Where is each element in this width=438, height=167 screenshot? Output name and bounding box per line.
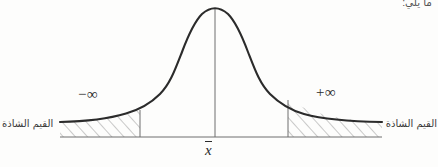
normal-distribution-diagram: [0, 0, 438, 167]
bell-curve-path: [60, 8, 382, 122]
outlier-label-right: القيم الشاذة: [386, 118, 437, 129]
outlier-label-left: القيم الشاذة: [2, 118, 53, 129]
right-tail-shading: [286, 96, 386, 139]
positive-infinity-label: +∞: [316, 84, 336, 101]
figure-container: ما يلي: القيم الشاذة: [0, 0, 438, 167]
negative-infinity-label: −∞: [78, 86, 98, 103]
mean-variable: x: [205, 143, 212, 157]
mean-symbol-label: x: [205, 141, 212, 157]
